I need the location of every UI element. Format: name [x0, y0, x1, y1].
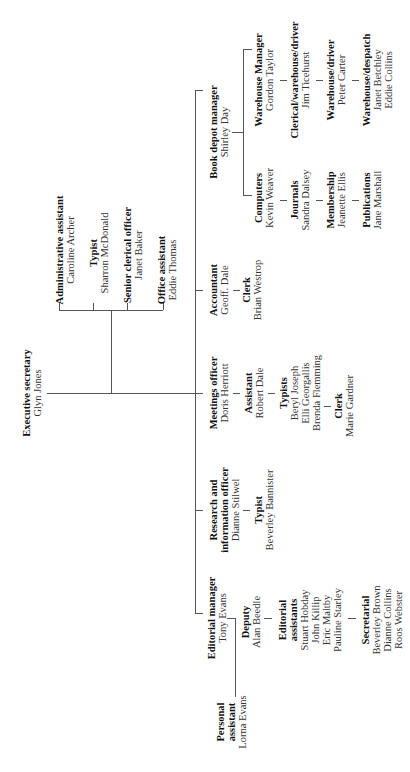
role-label: Editorial — [277, 588, 288, 652]
person-name: Beverley Bannister — [264, 470, 275, 551]
connector-editorial-to-deputy — [227, 618, 235, 619]
admin-group-bracket — [59, 310, 163, 311]
admin-tick-3 — [127, 303, 128, 310]
role-label: Typist — [88, 213, 99, 294]
person-name: Alan Beedle — [251, 596, 262, 648]
person-name: Roos Webster — [393, 585, 404, 654]
role-label: Typist — [253, 470, 264, 551]
dash-memb-pub — [352, 200, 359, 201]
depot-branch-vertical — [243, 49, 244, 195]
role-label: Warehouse Manager — [253, 33, 264, 126]
node-typist-admin: Typist Sharron McDonald — [88, 213, 110, 294]
role-label: Typists — [278, 355, 289, 431]
person-name: Eric Maltby — [321, 588, 332, 652]
person-name: Peter Carter — [336, 40, 347, 121]
connector-depot-to-branches — [232, 132, 243, 133]
node-deputy: Deputy Alan Beedle — [240, 596, 262, 648]
person-name: Janet Baker — [133, 207, 144, 303]
role-label: Research and — [208, 467, 219, 552]
person-name: Jane Marshall — [372, 171, 383, 230]
dash-acc-clerk — [233, 290, 240, 291]
dash-comp-jour — [280, 200, 287, 201]
role-label: Accountant — [208, 264, 219, 316]
dash-typists-clerk — [324, 406, 331, 407]
person-name: Beryl Joseph — [289, 355, 300, 431]
role-label: Membership — [325, 171, 336, 228]
node-meetings-officer: Meetings officer Doris Herriott — [208, 357, 230, 430]
person-name: Brian Westrop — [252, 260, 263, 321]
person-name: Glyn Jones — [32, 349, 43, 437]
tick-accountant — [195, 290, 203, 291]
person-name: Eddie Collins — [383, 34, 394, 127]
person-name: Dianne Stilwel — [230, 467, 241, 552]
node-secretarial: Secretarial Beverley Brown Dianne Collin… — [360, 585, 404, 654]
node-senior-clerical-officer: Senior clerical officer Janet Baker — [122, 207, 144, 303]
node-journals: Journals Sandra Dalsey — [289, 170, 311, 231]
role-label: Computers — [253, 168, 264, 228]
role-label: Publications — [361, 171, 372, 230]
node-meetings-assistant: Assistant Robert Dale — [243, 367, 265, 418]
node-publications: Publications Jane Marshall — [361, 171, 383, 230]
person-name: Janet Betchley — [372, 34, 383, 127]
person-name: Shirley Day — [219, 85, 230, 178]
dash-cwd-wd — [316, 80, 323, 81]
role-label: Clerk — [333, 375, 344, 437]
role-label: Warehouse/driver — [325, 40, 336, 121]
node-research-information-officer: Research and information officer Dianne … — [208, 467, 241, 552]
admin-tick-2 — [93, 303, 94, 310]
connector-exec-to-admin-group — [111, 310, 112, 393]
role-label: Deputy — [240, 596, 251, 648]
person-name: Caroline Archer — [65, 196, 76, 305]
role-label: Senior clerical officer — [122, 207, 133, 303]
person-name: John Killip — [310, 588, 321, 652]
role-label: Book depot manager — [208, 85, 219, 178]
node-warehouse-manager: Warehouse Manager Gordon Taylor — [253, 33, 275, 126]
role-label: Assistant — [243, 367, 254, 418]
role-label: Editorial manager — [206, 577, 217, 660]
node-clerical-warehouse-driver: Clerical/warehouse/driver Jim Ticehurst — [289, 21, 311, 138]
person-name: Kevin Weaver — [264, 168, 275, 228]
node-executive-secretary: Executive secretary Glyn Jones — [21, 349, 43, 437]
person-name: Stuart Hobday — [299, 588, 310, 652]
role-label: information officer — [219, 467, 230, 552]
person-name: Sandra Dalsey — [300, 170, 311, 231]
role-label: Warehouse/despatch — [361, 34, 372, 127]
person-name: Pauline Starley — [332, 588, 343, 652]
role-label: Clerical/warehouse/driver — [289, 21, 300, 138]
person-name: Tony Evans — [217, 577, 228, 660]
dash-wd-wdes — [352, 80, 359, 81]
node-meetings-clerk: Clerk Marie Gardner — [333, 375, 355, 437]
main-trunk — [195, 90, 196, 613]
node-book-depot-manager: Book depot manager Shirley Day — [208, 85, 230, 178]
role-label: Executive secretary — [21, 349, 32, 437]
node-warehouse-despatch: Warehouse/despatch Janet Betchley Eddie … — [361, 34, 394, 127]
person-name: Jim Ticehurst — [300, 21, 311, 138]
connector-exec-to-trunk — [47, 393, 195, 394]
tick-meetings — [195, 393, 203, 394]
person-name: Beverley Brown — [371, 585, 382, 654]
person-name: Geoff. Dale — [219, 264, 230, 316]
role-label: assistant — [226, 695, 237, 748]
role-label: Journals — [289, 170, 300, 231]
node-editorial-assistants: Editorial assistants Stuart Hobday John … — [277, 588, 343, 652]
dash-deputy-edassist — [264, 618, 272, 619]
dash-research-typist — [243, 510, 250, 511]
node-research-typist: Typist Beverley Bannister — [253, 470, 275, 551]
node-accounts-clerk: Clerk Brian Westrop — [241, 260, 263, 321]
person-name: Eddie Thomas — [167, 236, 178, 305]
node-computers: Computers Kevin Weaver — [253, 168, 275, 228]
role-label: Secretarial — [360, 585, 371, 654]
role-label: Meetings officer — [208, 357, 219, 430]
person-name: Dianne Collins — [382, 585, 393, 654]
dash-wm-cwd — [280, 80, 287, 81]
tick-computers — [243, 195, 252, 196]
person-name: Jeanette Ellis — [336, 171, 347, 228]
person-name: Robert Dale — [254, 367, 265, 418]
node-editorial-manager: Editorial manager Tony Evans — [206, 577, 228, 660]
role-label: assistants — [288, 588, 299, 652]
dash-jour-memb — [316, 200, 323, 201]
person-name: Lorna Evans — [237, 695, 248, 748]
dash-meet-assist — [233, 393, 240, 394]
person-name: Gordon Taylor — [264, 33, 275, 126]
person-name: Elli Georgallis — [300, 355, 311, 431]
